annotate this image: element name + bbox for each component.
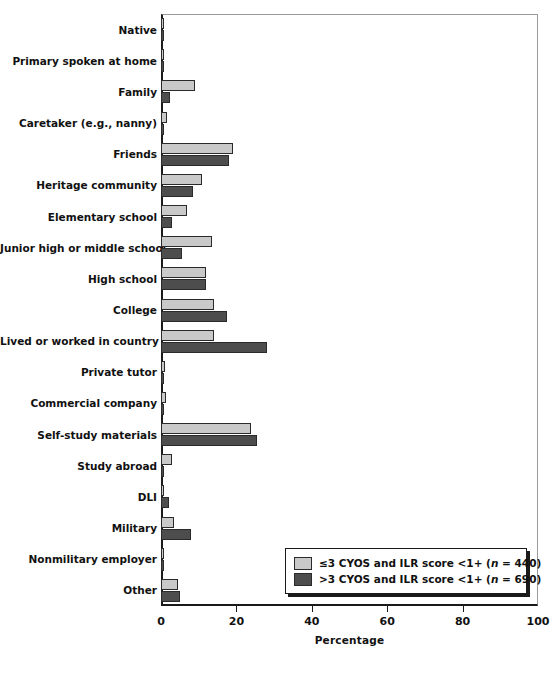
category-label: Lived or worked in country bbox=[0, 336, 157, 347]
bar bbox=[161, 497, 169, 508]
bar bbox=[161, 373, 164, 384]
bar bbox=[161, 404, 164, 415]
light-gray-swatch-icon bbox=[294, 557, 312, 570]
bar bbox=[161, 124, 164, 135]
category-label: Private tutor bbox=[0, 367, 157, 378]
bar bbox=[161, 174, 202, 185]
x-axis-tick bbox=[236, 606, 237, 612]
legend-item: >3 CYOS and ILR score <1+ (n = 690) bbox=[294, 571, 518, 587]
bar bbox=[161, 186, 193, 197]
bar bbox=[161, 236, 212, 247]
bar bbox=[161, 454, 172, 465]
category-label: Nonmilitary employer bbox=[0, 554, 157, 565]
category-label: College bbox=[0, 305, 157, 316]
bar bbox=[161, 267, 206, 278]
category-label: Commercial company bbox=[0, 398, 157, 409]
bar bbox=[161, 299, 214, 310]
category-label: Primary spoken at home bbox=[0, 56, 157, 67]
x-axis-tick-label: 40 bbox=[292, 615, 332, 628]
category-label: Native bbox=[0, 25, 157, 36]
bar bbox=[161, 548, 164, 559]
category-label: Caretaker (e.g., nanny) bbox=[0, 118, 157, 129]
category-label: Study abroad bbox=[0, 461, 157, 472]
legend-item: ≤3 CYOS and ILR score <1+ (n = 440) bbox=[294, 555, 518, 571]
bar bbox=[161, 517, 174, 528]
bar bbox=[161, 529, 191, 540]
bar bbox=[161, 466, 164, 477]
category-label: Other bbox=[0, 585, 157, 596]
bar bbox=[161, 485, 164, 496]
bar bbox=[161, 311, 227, 322]
bar bbox=[161, 560, 164, 571]
bar bbox=[161, 112, 167, 123]
bar bbox=[161, 92, 170, 103]
bar bbox=[161, 61, 164, 72]
bar bbox=[161, 49, 164, 60]
bar bbox=[161, 155, 229, 166]
category-label: Heritage community bbox=[0, 180, 157, 191]
x-axis-tick-label: 80 bbox=[443, 615, 483, 628]
category-label: High school bbox=[0, 274, 157, 285]
bar bbox=[161, 591, 180, 602]
bar bbox=[161, 579, 178, 590]
x-axis-tick-label: 60 bbox=[367, 615, 407, 628]
bar bbox=[161, 330, 214, 341]
category-axis-labels: NativePrimary spoken at homeFamilyCareta… bbox=[0, 14, 157, 606]
bar bbox=[161, 205, 187, 216]
x-axis-tick-label: 20 bbox=[216, 615, 256, 628]
category-label: Friends bbox=[0, 149, 157, 160]
x-axis-title: Percentage bbox=[161, 634, 538, 646]
bar bbox=[161, 18, 164, 29]
bar bbox=[161, 279, 206, 290]
category-label: Elementary school bbox=[0, 212, 157, 223]
bar bbox=[161, 248, 182, 259]
bar-chart: NativePrimary spoken at homeFamilyCareta… bbox=[0, 0, 558, 679]
x-axis-tick-label: 100 bbox=[518, 615, 558, 628]
bar bbox=[161, 435, 257, 446]
x-axis-tick bbox=[387, 606, 388, 612]
category-label: DLI bbox=[0, 492, 157, 503]
x-axis-tick bbox=[312, 606, 313, 612]
chart-legend: ≤3 CYOS and ILR score <1+ (n = 440) >3 C… bbox=[285, 548, 527, 594]
bar-rows-container bbox=[161, 14, 538, 606]
legend-item-label: ≤3 CYOS and ILR score <1+ (n = 440) bbox=[319, 557, 541, 569]
bar bbox=[161, 143, 233, 154]
bar bbox=[161, 361, 165, 372]
category-label: Self-study materials bbox=[0, 430, 157, 441]
legend-item-label: >3 CYOS and ILR score <1+ (n = 690) bbox=[319, 573, 541, 585]
x-axis-tick-label: 0 bbox=[141, 615, 181, 628]
bar bbox=[161, 392, 166, 403]
bar bbox=[161, 217, 172, 228]
category-label: Military bbox=[0, 523, 157, 534]
bar bbox=[161, 423, 251, 434]
bar bbox=[161, 30, 164, 41]
bar bbox=[161, 80, 195, 91]
x-axis-tick bbox=[463, 606, 464, 612]
dark-gray-swatch-icon bbox=[294, 573, 312, 586]
category-label: Family bbox=[0, 87, 157, 98]
bar bbox=[161, 342, 267, 353]
category-label: Junior high or middle school bbox=[0, 243, 157, 254]
